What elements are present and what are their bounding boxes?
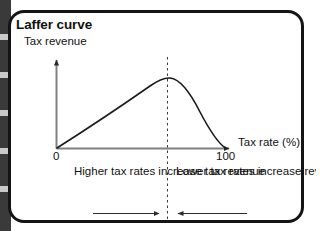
- x-axis-label: Tax rate (%): [238, 136, 300, 149]
- x-tick-label-100: 100: [216, 150, 235, 162]
- y-axis-label: Tax revenue: [24, 35, 87, 47]
- annotation-higher-tax-rates: Higher tax rates increase tax revenue: [74, 165, 180, 179]
- annotation-lower-tax-rates: Lower tax rates increase revenue: [176, 165, 272, 179]
- laffer-curve-path: [57, 78, 226, 149]
- x-tick-label-0: 0: [53, 150, 59, 162]
